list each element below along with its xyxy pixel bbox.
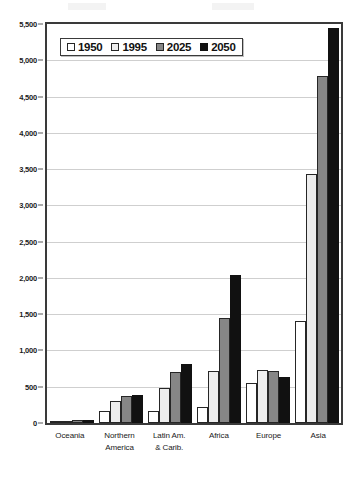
legend-label: 1950 (78, 41, 102, 53)
x-axis-category-label: Europe (244, 430, 294, 453)
x-axis-category-line: Northern (95, 430, 145, 442)
y-tick-label: 500 (25, 382, 37, 391)
bar (306, 174, 317, 423)
x-axis-category-line: Latin Am. (144, 430, 194, 442)
bar (295, 321, 306, 423)
y-tick-mark (38, 277, 43, 278)
bar (268, 371, 279, 423)
black-square-icon (200, 43, 208, 51)
bar (99, 411, 110, 423)
bar (208, 371, 219, 423)
bar (328, 28, 339, 423)
legend-item: 2025 (156, 41, 191, 53)
y-tick-label: 0 (33, 419, 37, 428)
y-tick-mark (38, 60, 43, 61)
y-tick-mark (38, 24, 43, 25)
x-axis-category-line: & Carib. (144, 442, 194, 454)
bar (148, 411, 159, 423)
x-axis-category-label: Africa (194, 430, 244, 453)
legend-item: 2050 (200, 41, 235, 53)
y-tick-mark (38, 96, 43, 97)
y-tick-mark (38, 386, 43, 387)
y-tick-label: 2,000 (19, 273, 37, 282)
y-tick-mark (38, 314, 43, 315)
y-tick-label: 3,500 (19, 165, 37, 174)
x-axis-category-label: Asia (293, 430, 343, 453)
bar-group (96, 24, 145, 423)
x-axis: OceaniaNorthernAmericaLatin Am.& Carib.A… (45, 430, 343, 453)
bar (246, 383, 257, 423)
legend-label: 1995 (122, 41, 146, 53)
x-axis-category-line: Asia (293, 430, 343, 442)
bar (230, 275, 241, 423)
legend-item: 1995 (111, 41, 146, 53)
bar (72, 420, 83, 423)
x-axis-category-line: Africa (194, 430, 244, 442)
x-axis-category-line: America (95, 442, 145, 454)
y-tick-label: 5,500 (19, 20, 37, 29)
bar-group (292, 24, 341, 423)
x-axis-category-line: Oceania (45, 430, 95, 442)
bar (181, 364, 192, 423)
bar (170, 372, 181, 423)
y-tick-label: 1,000 (19, 346, 37, 355)
bar (279, 377, 290, 423)
bar (159, 388, 170, 423)
gray-square-icon (156, 43, 164, 51)
bar (121, 396, 132, 423)
x-axis-category-line: Europe (244, 430, 294, 442)
y-tick-label: 5,000 (19, 56, 37, 65)
legend: 1950199520252050 (60, 38, 243, 56)
bar (132, 395, 143, 423)
y-tick-label: 4,500 (19, 92, 37, 101)
legend-label: 2025 (167, 41, 191, 53)
bar (219, 318, 230, 423)
bar (110, 401, 121, 423)
bar (317, 76, 328, 423)
x-axis-category-label: NorthernAmerica (95, 430, 145, 453)
y-tick-mark (38, 350, 43, 351)
bar-group (47, 24, 96, 423)
plot-area (45, 22, 343, 425)
y-tick-mark (38, 423, 43, 424)
bar (257, 370, 268, 423)
legend-label: 2050 (211, 41, 235, 53)
bar (83, 420, 94, 423)
y-tick-mark (38, 241, 43, 242)
y-axis: 05001,0001,5002,0002,5003,0003,5004,0004… (0, 0, 44, 485)
x-axis-category-label: Latin Am.& Carib. (144, 430, 194, 453)
bar (61, 421, 72, 423)
bar (50, 421, 61, 423)
y-tick-mark (38, 132, 43, 133)
bar (197, 407, 208, 423)
legend-item: 1950 (67, 41, 102, 53)
grouped-bar-chart: 05001,0001,5002,0002,5003,0003,5004,0004… (0, 0, 356, 485)
y-tick-label: 1,500 (19, 310, 37, 319)
bar-group (145, 24, 194, 423)
bar-group (243, 24, 292, 423)
y-tick-mark (38, 169, 43, 170)
y-tick-label: 3,000 (19, 201, 37, 210)
x-axis-category-label: Oceania (45, 430, 95, 453)
y-tick-mark (38, 205, 43, 206)
y-tick-label: 4,000 (19, 128, 37, 137)
white-square-icon (67, 43, 75, 51)
y-tick-label: 2,500 (19, 237, 37, 246)
light-gray-square-icon (111, 43, 119, 51)
bar-group (194, 24, 243, 423)
bars-layer (47, 24, 341, 423)
